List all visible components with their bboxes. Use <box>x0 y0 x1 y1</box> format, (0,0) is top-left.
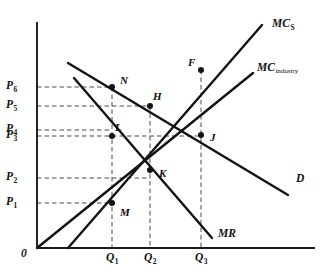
quantity-tick-label-Q3: Q3 <box>195 252 207 264</box>
curve-label-marginal-cost-industry: MCindustry <box>257 62 298 74</box>
curve-label-demand: D <box>296 173 304 185</box>
point-marker-N <box>109 84 115 90</box>
point-marker-F <box>198 67 204 73</box>
point-marker-K <box>147 167 153 173</box>
price-tick-label-P5: P5 <box>6 99 17 111</box>
point-label-F: F <box>188 57 195 68</box>
price-tick-label-P6: P6 <box>6 80 17 92</box>
price-tick-label-P1: P1 <box>6 196 17 208</box>
point-label-M: M <box>120 207 130 218</box>
plot-canvas <box>0 0 329 278</box>
point-marker-M <box>109 200 115 206</box>
curve-demand <box>68 63 288 195</box>
point-marker-H <box>147 103 153 109</box>
point-label-L: L <box>115 122 122 133</box>
economics-diagram: MCSMCindustryDMRNHFLJKMP6P5P4P3P2P1Q1Q2Q… <box>0 0 329 278</box>
curve-label-marginal-cost-single-firm: MCS <box>272 18 294 30</box>
curve-label-marginal-revenue: MR <box>218 228 236 240</box>
point-marker-L <box>109 133 115 139</box>
point-marker-J <box>198 132 204 138</box>
curve-marginal-revenue <box>74 78 212 238</box>
price-tick-label-P3: P3 <box>6 129 17 141</box>
price-tick-label-P2: P2 <box>6 171 17 183</box>
point-label-K: K <box>159 168 166 179</box>
point-label-H: H <box>153 91 162 102</box>
quantity-tick-label-Q2: Q2 <box>144 252 156 264</box>
quantity-tick-label-Q1: Q1 <box>106 252 118 264</box>
point-label-N: N <box>120 75 128 86</box>
origin-label: 0 <box>21 248 27 260</box>
point-label-J: J <box>210 132 216 143</box>
price-guide-lines <box>37 87 201 203</box>
